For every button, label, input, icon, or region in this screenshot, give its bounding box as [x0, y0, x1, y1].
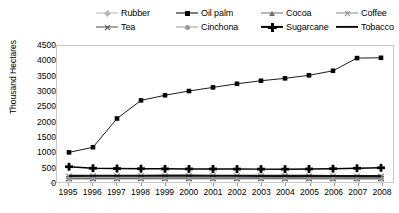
legend-item-oil-palm[interactable]: Oil palm — [176, 6, 261, 20]
square-point-marker — [259, 78, 264, 83]
series-sugarcane — [65, 163, 385, 173]
x-marker-icon — [344, 10, 351, 17]
legend-label: Tea — [121, 22, 135, 32]
circle-point-marker — [187, 177, 192, 182]
series-canvas — [57, 46, 393, 182]
square-point-marker — [211, 85, 216, 90]
circle-marker-icon — [185, 25, 190, 30]
x-axis-tick-mark — [358, 183, 359, 186]
legend-label: Cocoa — [286, 8, 312, 18]
y-axis-tick-mark — [50, 137, 54, 138]
legend-line-swatch — [176, 22, 198, 32]
triangle-marker-icon — [269, 11, 275, 16]
y-axis-tick-mark — [50, 45, 54, 46]
x-axis-tick-mark — [165, 183, 166, 186]
circle-point-marker — [211, 177, 216, 182]
plus-point-marker — [89, 164, 97, 172]
legend-item-coffee[interactable]: Coffee — [336, 6, 396, 20]
chart-legend: RubberOil palmCocoaCoffee TeaCinchonaSug… — [96, 6, 396, 34]
x-axis-tick-label: 2008 — [367, 188, 397, 197]
legend-line-swatch — [261, 8, 283, 18]
legend-row-1: RubberOil palmCocoaCoffee — [96, 6, 396, 20]
square-point-marker — [187, 89, 192, 94]
legend-item-rubber[interactable]: Rubber — [96, 6, 176, 20]
diamond-marker-icon — [103, 9, 110, 16]
legend-item-sugarcane[interactable]: Sugarcane — [261, 20, 336, 34]
x-axis-tick-mark — [141, 183, 142, 186]
circle-point-marker — [115, 177, 120, 182]
legend-item-tobacco[interactable]: Tobacco — [336, 20, 396, 34]
y-axis-tick-mark — [50, 152, 54, 153]
legend-item-cinchona[interactable]: Cinchona — [176, 20, 261, 34]
plus-point-marker — [209, 165, 217, 173]
legend-label: Tobacco — [361, 22, 394, 32]
x-axis-tick-mark — [116, 183, 117, 186]
legend-line-swatch — [96, 8, 118, 18]
plus-point-marker — [113, 165, 121, 173]
x-axis-tick-labels: 1995199619971998199920002001200220032004… — [56, 188, 394, 202]
plus-point-marker — [233, 165, 241, 173]
y-axis-tick-mark — [50, 183, 54, 184]
legend-line-swatch — [336, 8, 358, 18]
circle-point-marker — [163, 177, 168, 182]
legend-label: Oil palm — [201, 8, 233, 18]
plus-point-marker — [65, 163, 73, 171]
legend-item-tea[interactable]: Tea — [96, 20, 176, 34]
square-point-marker — [235, 82, 240, 87]
plus-point-marker — [329, 165, 337, 173]
x-axis-tick-mark — [68, 183, 69, 186]
circle-point-marker — [283, 177, 288, 182]
plus-point-marker — [161, 165, 169, 173]
circle-point-marker — [235, 177, 240, 182]
x-axis-tick-mark — [213, 183, 214, 186]
circle-point-marker — [139, 177, 144, 182]
chart-container: RubberOil palmCocoaCoffee TeaCinchonaSug… — [0, 0, 399, 213]
legend-label: Sugarcane — [286, 22, 329, 32]
y-axis-tick-mark — [50, 106, 54, 107]
plus-point-marker — [353, 164, 361, 172]
y-axis-tick-mark — [50, 168, 54, 169]
square-point-marker — [355, 56, 360, 61]
legend-line-swatch — [96, 22, 118, 32]
legend-line-swatch — [176, 8, 198, 18]
legend-row-2: TeaCinchonaSugarcaneTobacco — [96, 20, 396, 34]
square-point-marker — [67, 150, 72, 155]
y-axis-tick-mark — [50, 91, 54, 92]
square-point-marker — [115, 116, 120, 121]
circle-point-marker — [259, 177, 264, 182]
circle-point-marker — [355, 177, 360, 182]
plus-point-marker — [137, 165, 145, 173]
square-point-marker — [283, 76, 288, 81]
x-axis-tick-mark — [237, 183, 238, 186]
square-point-marker — [139, 98, 144, 103]
circle-point-marker — [331, 177, 336, 182]
x-axis-tick-mark — [92, 183, 93, 186]
square-point-marker — [91, 145, 96, 150]
legend-line-swatch — [261, 22, 283, 32]
x-marker-icon — [104, 24, 111, 31]
plus-point-marker — [185, 165, 193, 173]
legend-label: Coffee — [361, 8, 387, 18]
series-oil-palm — [67, 56, 384, 155]
x-axis-tick-mark — [189, 183, 190, 186]
circle-point-marker — [91, 177, 96, 182]
square-marker-icon — [185, 11, 190, 16]
plus-point-marker — [281, 165, 289, 173]
y-axis-title: Thousand Hectares — [8, 37, 18, 117]
circle-point-marker — [307, 177, 312, 182]
x-axis-tick-mark — [261, 183, 262, 186]
plus-point-marker — [257, 165, 265, 173]
x-axis-tick-mark — [310, 183, 311, 186]
legend-label: Cinchona — [201, 22, 238, 32]
circle-point-marker — [379, 177, 384, 182]
x-axis-tick-mark — [334, 183, 335, 186]
square-point-marker — [379, 56, 384, 61]
x-axis-tick-mark — [382, 183, 383, 186]
x-axis-tick-mark — [285, 183, 286, 186]
square-point-marker — [331, 69, 336, 74]
square-point-marker — [163, 93, 168, 98]
y-axis-tick-mark — [50, 76, 54, 77]
legend-item-cocoa[interactable]: Cocoa — [261, 6, 336, 20]
plus-marker-icon — [268, 23, 277, 32]
y-axis-tick-mark — [50, 60, 54, 61]
